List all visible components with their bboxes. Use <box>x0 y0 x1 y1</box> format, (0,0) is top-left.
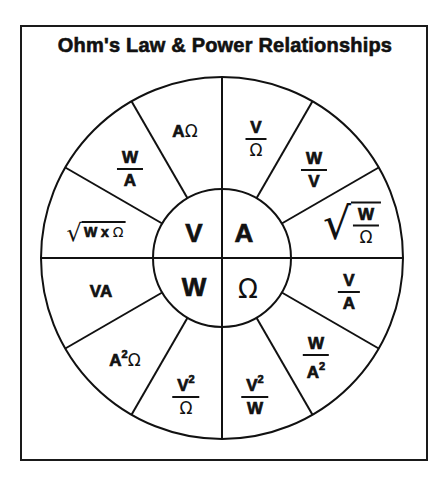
sector-va: VA <box>90 282 112 302</box>
sector-a-squared-ohm: A2Ω <box>109 348 140 371</box>
sector-w-over-a: WA <box>117 148 143 190</box>
sector-a-ohm: AΩ <box>172 121 197 142</box>
center-voltage: V <box>185 218 202 249</box>
spoke-330 <box>282 293 379 349</box>
center-power: W <box>182 272 207 303</box>
spoke-150 <box>65 168 162 224</box>
sector-w-over-v: WV <box>301 149 327 191</box>
sector-v-over-ohm: VΩ <box>245 118 268 160</box>
center-current: A <box>235 218 254 249</box>
sector-v-over-a: VA <box>338 271 360 313</box>
radical-icon: √ <box>67 221 82 245</box>
sector-sqrt-w-times-ohm: √W x Ω <box>67 221 126 245</box>
sector-v-squared-over-w: V2W <box>241 370 268 418</box>
sector-v-squared-over-ohm: V2Ω <box>172 370 199 418</box>
sector-sqrt-w-over-ohm: √WΩ <box>323 202 381 247</box>
radical-icon: √ <box>323 202 351 247</box>
center-resistance: Ω <box>238 274 258 304</box>
spoke-210 <box>65 293 162 349</box>
sector-w-over-a-squared: WA2 <box>302 334 330 382</box>
